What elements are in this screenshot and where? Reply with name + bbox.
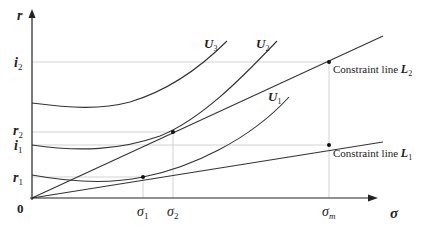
x-tick-sigmam: σm: [322, 204, 336, 221]
origin-label: 0: [17, 201, 24, 216]
curve-label-u1: U1: [268, 89, 281, 106]
y-axis-arrow-icon: [29, 9, 36, 18]
constraint-line-l1: [32, 142, 383, 198]
x-axis-label: σ: [390, 205, 399, 221]
y-tick-r1: r1: [13, 170, 23, 187]
curve-label-u3: U3: [204, 36, 217, 53]
curve-label-u2: U2: [256, 36, 269, 53]
point-l1-sigmam: [327, 143, 331, 147]
y-tick-i2: i2: [14, 55, 22, 72]
constraint-line-l2: [32, 36, 383, 198]
utility-constraint-diagram: r σ 0 i2 r2 i1 r1 σ1 σ2 σm U3 U2 U1 Cons…: [0, 0, 422, 227]
y-tick-i1: i1: [14, 138, 22, 155]
constraint-label-l2: Constraint line L2: [333, 62, 412, 78]
point-l2-sigmam: [327, 60, 331, 64]
x-axis-arrow-icon: [368, 195, 378, 202]
curve-u3: [32, 41, 227, 107]
x-tick-sigma2: σ2: [167, 204, 178, 221]
tangent-point-1: [141, 175, 145, 179]
tangent-point-2: [171, 130, 175, 134]
curve-u2: [32, 41, 277, 149]
y-axis-label: r: [17, 8, 23, 23]
x-tick-sigma1: σ1: [137, 204, 148, 221]
constraint-label-l1: Constraint line L1: [333, 146, 412, 162]
